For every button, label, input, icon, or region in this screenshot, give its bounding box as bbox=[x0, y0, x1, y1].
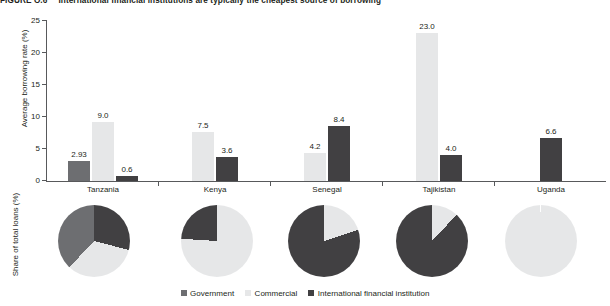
y-tick-label-25: 25 bbox=[20, 17, 40, 25]
figure-title: FIGURE O.6International financial instit… bbox=[0, 0, 610, 8]
category-label-uganda: Uganda bbox=[511, 186, 591, 194]
bar-plot-area: 0 5 10 15 20 25 2.93 9.0 0.6 Tanzani bbox=[46, 20, 606, 182]
category-label-senegal: Senegal bbox=[287, 186, 367, 194]
bar-value-kenya-ifi: 3.6 bbox=[207, 147, 247, 155]
bar-value-tanzania-commercial: 9.0 bbox=[83, 112, 123, 120]
pie-senegal bbox=[288, 205, 360, 277]
y-tick-label-10: 10 bbox=[20, 113, 40, 121]
y-tick-label-15: 15 bbox=[20, 81, 40, 89]
bar-kenya-ifi bbox=[216, 157, 238, 181]
chart-area: Average borrowing rate (%) 0 5 10 15 20 … bbox=[0, 8, 610, 306]
bar-kenya-commercial bbox=[192, 132, 214, 181]
bar-senegal-commercial bbox=[304, 153, 326, 181]
bar-value-tajikistan-commercial: 23.0 bbox=[407, 23, 447, 31]
figure-number: FIGURE O.6 bbox=[0, 0, 47, 5]
figure-title-text: International financial institutions are… bbox=[58, 0, 381, 5]
pie-tanzania bbox=[58, 205, 130, 277]
category-label-kenya: Kenya bbox=[175, 186, 255, 194]
legend-swatch-ifi-icon bbox=[308, 290, 314, 296]
bar-value-uganda-ifi: 6.6 bbox=[531, 128, 571, 136]
y-axis-line bbox=[46, 20, 47, 182]
legend-item-government: Government bbox=[181, 289, 235, 298]
category-label-tajikistan: Tajikistan bbox=[399, 186, 479, 194]
bar-uganda-ifi bbox=[540, 138, 562, 181]
y-tick-label-20: 20 bbox=[20, 49, 40, 57]
bar-chart-panel: Average borrowing rate (%) 0 5 10 15 20 … bbox=[0, 8, 610, 194]
bar-tanzania-ifi bbox=[116, 176, 138, 181]
legend-swatch-commercial-icon bbox=[245, 290, 251, 296]
legend-label-ifi: International financial institution bbox=[318, 289, 430, 298]
legend-label-government: Government bbox=[190, 289, 234, 298]
pie-uganda bbox=[505, 205, 577, 277]
bar-tajikistan-commercial bbox=[416, 33, 438, 181]
pie-kenya bbox=[181, 205, 253, 277]
y-tick-label-5: 5 bbox=[20, 145, 40, 153]
bar-value-tajikistan-ifi: 4.0 bbox=[431, 145, 471, 153]
category-label-tanzania: Tanzania bbox=[63, 186, 143, 194]
pie-y-axis-label: Share of total loans (%) bbox=[11, 187, 20, 283]
chart-legend: Government Commercial International fina… bbox=[0, 286, 610, 300]
legend-item-commercial: Commercial bbox=[245, 289, 297, 298]
bar-value-tanzania-ifi: 0.6 bbox=[107, 166, 147, 174]
legend-item-ifi: International financial institution bbox=[308, 289, 429, 298]
pie-tajikistan bbox=[396, 205, 468, 277]
legend-label-commercial: Commercial bbox=[255, 289, 298, 298]
bar-tanzania-government bbox=[68, 161, 90, 181]
bar-y-axis-label: Average borrowing rate (%) bbox=[20, 9, 29, 149]
bar-tajikistan-ifi bbox=[440, 155, 462, 181]
pie-chart-panel: Share of total loans (%) bbox=[0, 194, 610, 278]
bar-senegal-ifi bbox=[328, 126, 350, 181]
y-tick-label-0: 0 bbox=[20, 177, 40, 185]
bar-value-senegal-ifi: 8.4 bbox=[319, 116, 359, 124]
x-axis-line bbox=[46, 181, 606, 182]
bar-value-kenya-commercial: 7.5 bbox=[183, 122, 223, 130]
legend-swatch-government-icon bbox=[181, 290, 187, 296]
